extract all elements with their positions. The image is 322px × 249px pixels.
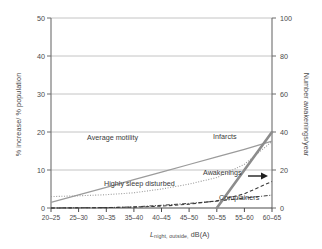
y-axis-left-title: % increase/ % population bbox=[14, 55, 23, 175]
ytick-right-100: 100 bbox=[280, 14, 302, 23]
ytick-left-10: 10 bbox=[23, 166, 45, 175]
x-axis-title: Lnight, outside, dB(A) bbox=[150, 230, 210, 239]
ytick-left-0: 0 bbox=[23, 204, 45, 213]
y-axis-right-ticks bbox=[272, 18, 276, 208]
label-complainers: Complainers bbox=[219, 193, 259, 202]
label-highly-sleep-disturbed: Highly sleep disturbed bbox=[104, 179, 175, 188]
ytick-right-20: 20 bbox=[280, 166, 302, 175]
ytick-left-50: 50 bbox=[23, 14, 45, 23]
chart-canvas bbox=[0, 0, 322, 249]
chart-figure: 50 40 30 20 10 0 100 80 60 40 20 0 20–25… bbox=[0, 0, 322, 249]
label-average-motility: Average motility bbox=[87, 133, 138, 142]
y-axis-right-title: Number awakenings/year bbox=[302, 55, 311, 175]
label-infarcts: Infarcts bbox=[213, 132, 237, 141]
ytick-left-30: 30 bbox=[23, 90, 45, 99]
gridlines bbox=[51, 18, 272, 170]
xtick-60-65: 60–65 bbox=[256, 214, 288, 221]
ytick-left-20: 20 bbox=[23, 128, 45, 137]
ytick-right-60: 60 bbox=[280, 90, 302, 99]
x-axis-ticks bbox=[51, 208, 272, 212]
ytick-right-80: 80 bbox=[280, 52, 302, 61]
ytick-right-40: 40 bbox=[280, 128, 302, 137]
x-axis-title-subscript: night, outside, bbox=[154, 233, 188, 239]
label-awakenings: Awakenings bbox=[203, 168, 242, 177]
x-axis-title-unit: dB(A) bbox=[191, 230, 210, 239]
awakenings-right-axis-arrow bbox=[248, 173, 268, 180]
ytick-left-40: 40 bbox=[23, 52, 45, 61]
ytick-right-0: 0 bbox=[280, 204, 302, 213]
y-axis-left-ticks bbox=[47, 18, 51, 208]
